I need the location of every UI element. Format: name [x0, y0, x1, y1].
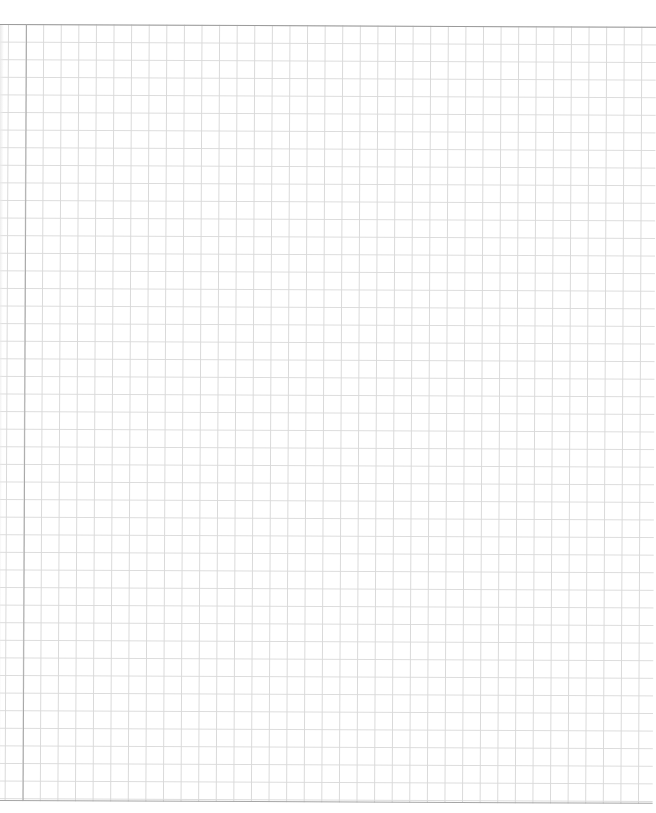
grid-lines — [0, 24, 656, 804]
graph-paper-sheet — [0, 24, 656, 804]
